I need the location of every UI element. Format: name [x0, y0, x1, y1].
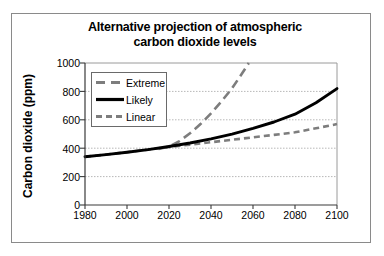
legend-swatch-extreme-icon — [95, 77, 125, 88]
legend-item-likely[interactable]: Likely — [92, 91, 168, 108]
legend-label-extreme: Extreme — [126, 77, 165, 89]
legend-label-linear: Linear — [126, 111, 155, 123]
x-axis-ticks — [85, 205, 337, 209]
y-axis-ticks — [80, 63, 85, 205]
legend-item-linear[interactable]: Linear — [92, 108, 168, 125]
legend-item-extreme[interactable]: Extreme — [92, 74, 168, 91]
chart-figure: Alternative projection of atmospheric ca… — [0, 0, 384, 256]
legend-swatch-likely-icon — [95, 94, 125, 105]
chart-legend: Extreme Likely Linear — [91, 72, 167, 127]
legend-label-likely: Likely — [126, 94, 153, 106]
plot-area — [0, 0, 384, 256]
legend-swatch-linear-icon — [95, 111, 125, 122]
